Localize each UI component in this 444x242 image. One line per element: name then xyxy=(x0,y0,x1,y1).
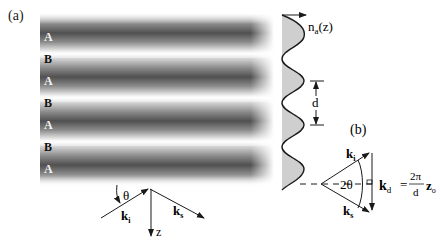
two-theta-label: 2θ xyxy=(340,177,353,192)
z-axis-label: z xyxy=(156,225,161,239)
fraction-denominator: d xyxy=(413,186,419,198)
diagram-overlay: na(z) d θ ki ks z 2θ ki ks kd = 2π d zo xyxy=(0,0,444,242)
equals-sign: = xyxy=(400,177,407,192)
right-angle-mark xyxy=(367,180,372,184)
profile-label: na(z) xyxy=(308,19,333,36)
vector-triangle: 2θ ki ks kd = 2π d zo xyxy=(300,146,436,220)
kd-label: kd xyxy=(379,178,392,195)
period-label: d xyxy=(312,95,319,110)
z-unit-vector: zo xyxy=(426,178,436,195)
fraction-numerator: 2π xyxy=(410,170,422,182)
theta-arc xyxy=(117,185,120,203)
period-dimension: d xyxy=(310,81,324,125)
ki-triangle-label: ki xyxy=(346,146,356,163)
index-profile: na(z) xyxy=(282,15,333,190)
panel-b-label: (b) xyxy=(350,122,367,138)
ks-triangle-label: ks xyxy=(343,203,353,220)
ki-label: ki xyxy=(121,208,131,225)
theta-label: θ xyxy=(123,188,129,203)
scattering-geometry: θ ki ks z xyxy=(101,185,204,239)
